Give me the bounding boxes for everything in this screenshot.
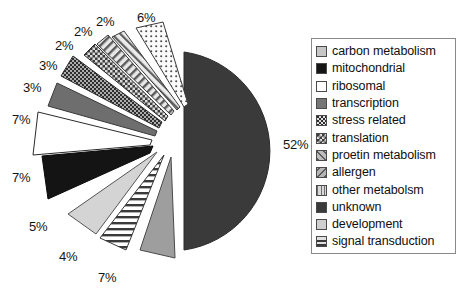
legend-item-label: stress related — [332, 114, 406, 127]
legend-swatch-icon — [316, 185, 327, 196]
pie-percent-label: 3% — [39, 58, 57, 73]
pie-percent-label: 52% — [283, 137, 308, 152]
pie-percent-label: 5% — [29, 219, 47, 234]
legend-item[interactable]: unknown — [316, 199, 452, 216]
chart-legend: carbon metabolismmitochondrialribosomalt… — [311, 38, 456, 254]
legend-swatch-icon — [316, 133, 327, 144]
legend-item-label: allergen — [332, 166, 376, 179]
pie-percent-label: 7% — [98, 270, 116, 285]
legend-swatch-icon — [316, 46, 327, 57]
legend-item[interactable]: proetin metabolism — [316, 147, 452, 164]
legend-item[interactable]: ribosomal — [316, 78, 452, 95]
pie-percent-label: 2% — [96, 14, 114, 29]
legend-item-label: translation — [332, 132, 389, 145]
pie-percent-label: 3% — [23, 80, 41, 95]
legend-item[interactable]: other metabolsm — [316, 181, 452, 198]
legend-swatch-icon — [316, 167, 327, 178]
pie-percent-label: 6% — [137, 10, 155, 25]
legend-item-label: ribosomal — [332, 80, 385, 93]
pie-slice-unknown — [184, 52, 270, 250]
legend-item[interactable]: translation — [316, 129, 452, 146]
legend-item-label: proetin metabolism — [332, 149, 436, 162]
legend-swatch-icon — [316, 81, 327, 92]
pie-percent-label: 4% — [59, 249, 77, 264]
legend-item[interactable]: signal transduction — [316, 233, 452, 250]
legend-item-label: transcription — [332, 97, 399, 110]
legend-item[interactable]: development — [316, 216, 452, 233]
legend-item-label: other metabolsm — [332, 184, 424, 197]
pie-percent-label: 7% — [12, 112, 30, 127]
legend-swatch-icon — [316, 150, 327, 161]
legend-item[interactable]: stress related — [316, 112, 452, 129]
legend-item[interactable]: mitochondrial — [316, 60, 452, 77]
legend-item[interactable]: carbon metabolism — [316, 43, 452, 60]
legend-item-label: unknown — [332, 201, 381, 214]
legend-item-label: signal transduction — [332, 235, 434, 248]
legend-swatch-icon — [316, 236, 327, 247]
pie-percent-label: 2% — [74, 24, 92, 39]
legend-item[interactable]: transcription — [316, 95, 452, 112]
legend-swatch-icon — [316, 202, 327, 213]
legend-item-label: carbon metabolism — [332, 45, 436, 58]
pie-chart-figure: 2%2%2%6%3%3%7%7%5%4%7%52% carbon metabol… — [0, 0, 467, 297]
legend-swatch-icon — [316, 115, 327, 126]
legend-item-label: mitochondrial — [332, 62, 405, 75]
legend-swatch-icon — [316, 219, 327, 230]
legend-swatch-icon — [316, 98, 327, 109]
legend-item[interactable]: allergen — [316, 164, 452, 181]
legend-item-label: development — [332, 218, 402, 231]
pie-percent-label: 7% — [12, 170, 30, 185]
pie-percent-label: 2% — [55, 38, 73, 53]
legend-swatch-icon — [316, 63, 327, 74]
